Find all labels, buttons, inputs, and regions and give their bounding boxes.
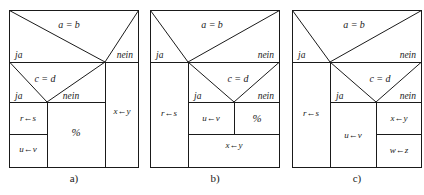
panel-b-outer-yes: ja — [154, 50, 164, 60]
panel-a-outer-condition: a = b — [58, 19, 80, 30]
panel-c-inner-yes: ja — [334, 91, 344, 101]
panel-a-inner-condition: c = d — [34, 73, 56, 84]
panel-a-assign-xy: x←y — [113, 106, 131, 116]
structogram-panel-a: a = b ja nein x←y c = d ja nein r←s u←v … — [9, 10, 139, 168]
panel-b-outer-no: nein — [258, 50, 275, 60]
panel-a-outer-yes: ja — [13, 50, 23, 60]
panel-a-outer-no: nein — [117, 50, 134, 60]
panel-a-empty-statement: % — [71, 126, 80, 138]
panel-c-inner-no: nein — [400, 91, 417, 101]
panel-b-inner-no: nein — [258, 91, 275, 101]
panel-c-outer-condition: a = b — [343, 19, 365, 30]
panel-c-inner-condition: c = d — [369, 73, 391, 84]
panel-a-assign-rs: r←s — [20, 113, 37, 123]
panel-b-outer-condition: a = b — [201, 19, 223, 30]
panel-b-assign-uv: u←v — [202, 113, 220, 123]
panel-a-assign-uv: u←v — [19, 144, 37, 154]
structogram-panel-b: a = b ja nein r←s c = d ja nein u←v % x←… — [150, 10, 280, 168]
panel-b-inner-condition: c = d — [227, 73, 249, 84]
figure-root: a = b ja nein x←y c = d ja nein r←s u←v … — [0, 0, 424, 195]
panel-c-outer-yes: ja — [296, 50, 306, 60]
panel-c-assign-rs: r←s — [303, 108, 320, 118]
panel-a-inner-yes: ja — [13, 91, 23, 101]
panel-b-assign-rs: r←s — [161, 108, 178, 118]
panel-b-assign-xy: x←y — [225, 140, 243, 150]
structogram-panel-c: a = b ja nein r←s c = d ja nein u←v x←y … — [292, 10, 422, 168]
panel-b-empty-statement: % — [252, 112, 261, 124]
panel-b-inner-yes: ja — [192, 91, 202, 101]
panel-a-caption: a) — [9, 172, 139, 184]
panel-c-assign-xy: x←y — [390, 113, 408, 123]
panel-c-outer-no: nein — [400, 50, 417, 60]
panel-c-caption: c) — [292, 172, 422, 184]
panel-c-assign-wz: w←z — [390, 145, 409, 155]
panel-b-caption: b) — [150, 172, 280, 184]
panel-a-inner-no: nein — [63, 91, 80, 101]
panel-c-assign-uv: u←v — [344, 130, 362, 140]
